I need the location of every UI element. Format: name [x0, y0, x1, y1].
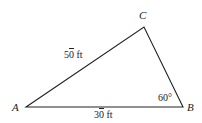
side-ab-unit: ft — [104, 109, 113, 120]
triangle-diagram: A B C 50 ft 30 ft 60° — [0, 0, 202, 123]
side-ac-unit: ft — [74, 49, 83, 60]
vertex-label-c: C — [139, 10, 146, 21]
side-ab-length: 30 ft — [94, 110, 113, 120]
triangle-figure — [0, 0, 202, 123]
angle-b-measure: 60° — [158, 93, 172, 103]
vertex-label-a: A — [12, 102, 19, 113]
vertex-label-b: B — [187, 102, 194, 113]
side-ac-length: 50 ft — [64, 50, 83, 60]
